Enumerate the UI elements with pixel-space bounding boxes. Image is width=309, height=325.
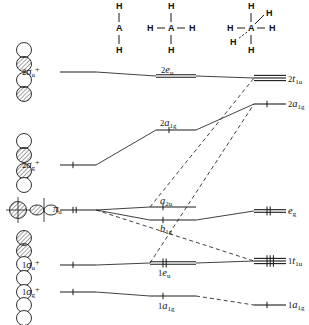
tetrahedral-ah4-center: A xyxy=(248,23,255,33)
energy-levels-group xyxy=(60,72,286,308)
tetrahedral-ah4-bond-dash xyxy=(238,32,247,39)
level-b1g xyxy=(150,217,196,223)
level-2sigma-g-plus-label: 2σg+ xyxy=(22,159,39,172)
level-2a1g-middle-label: 2a1g xyxy=(160,118,177,130)
pictogram-1sigma-chain-lobe-6 xyxy=(17,311,32,325)
level-2sigma-g-plus xyxy=(60,162,96,168)
linear-ah2-h-bottom: H xyxy=(116,45,123,55)
diagram-canvas xyxy=(0,0,309,325)
tetrahedral-ah4-h-wedge: H xyxy=(266,8,273,18)
corr-piu-a2u xyxy=(96,207,150,210)
level-1eu xyxy=(150,259,196,268)
orbital-pictograms-group xyxy=(6,43,58,325)
tetrahedral-ah4-bond-wedge xyxy=(255,15,264,24)
level-pi-u xyxy=(60,207,96,213)
square-planar-ah4-h-left: H xyxy=(147,23,154,33)
level-2a1g-right-label: 2a1g xyxy=(288,99,305,111)
level-eg-label: eg xyxy=(288,206,296,218)
correlation-lines-group xyxy=(96,72,254,305)
level-1a1g-right-label: 1a1g xyxy=(288,300,305,312)
pictogram-2sigma-u-lobe-0 xyxy=(17,43,32,58)
level-2sigma-u-plus-label: 2σu+ xyxy=(22,66,39,79)
tetrahedral-ah4-h-dash: H xyxy=(230,37,237,47)
level-b1g-label: b1g xyxy=(160,224,172,236)
level-1t1u xyxy=(254,255,286,267)
corr-a2u-2t1u-dashed xyxy=(150,78,254,207)
level-2eu-label: 2eu xyxy=(161,65,173,77)
pictogram-2sigma-g-lobe-3 xyxy=(17,178,32,193)
tetrahedral-ah4-h-left: H xyxy=(227,23,234,33)
level-1sigma-u-plus-label: 1σu+ xyxy=(22,259,39,272)
level-1sigma-u-plus xyxy=(60,262,96,268)
level-pi-u-label: πu xyxy=(53,204,62,216)
linear-ah2-h-top: H xyxy=(116,1,123,11)
level-a2u-label: a2u xyxy=(160,196,172,208)
corr-2a1gmid-2a1gright xyxy=(196,104,254,130)
pictogram-pi-u-lobe-left xyxy=(30,205,44,215)
tetrahedral-ah4-h-bottom: H xyxy=(248,45,255,55)
corr-b1g-eg xyxy=(196,211,254,220)
pictogram-pi-u xyxy=(6,197,58,223)
corr-1sigmag-1a1gmid xyxy=(96,292,150,296)
corr-2sigmau-2eu xyxy=(96,72,156,76)
square-planar-ah4-h-top: H xyxy=(168,1,175,11)
level-2t1u-label: 2t1u xyxy=(288,74,302,86)
level-1sigma-g-plus xyxy=(60,289,96,295)
level-2t1u xyxy=(254,75,286,80)
square-planar-ah4-h-right: H xyxy=(189,23,196,33)
square-planar-ah4-center: A xyxy=(168,23,175,33)
level-1t1u-label: 1t1u xyxy=(288,256,302,268)
pictogram-1sigma-chain xyxy=(17,231,32,325)
corr-2sigmag-2a1g-mid xyxy=(96,130,156,165)
pictogram-2sigma-u-lobe-3 xyxy=(17,87,32,102)
tetrahedral-ah4-h-right: H xyxy=(269,23,276,33)
pictogram-1sigma-chain-lobe-3 xyxy=(17,271,32,286)
level-1a1g-middle xyxy=(150,293,196,299)
square-planar-ah4-h-bottom: H xyxy=(168,45,175,55)
corr-1a1gmid-1a1gright xyxy=(196,296,254,305)
level-1a1g-right xyxy=(254,302,286,308)
linear-ah2-center: A xyxy=(116,23,123,33)
corr-2eu-2t1u xyxy=(196,76,254,78)
corr-piu-1t1u-dashed xyxy=(96,210,254,261)
level-1a1g-middle-label: 1a1g xyxy=(158,301,175,313)
corr-1sigmau-1eu xyxy=(96,263,150,265)
level-a2u xyxy=(150,204,196,210)
level-1sigma-g-plus-label: 1σg+ xyxy=(22,286,39,299)
corr-1eu-1t1u xyxy=(196,261,254,263)
pictogram-2sigma-g-lobe-0 xyxy=(17,134,32,149)
level-2a1g-right xyxy=(254,101,286,107)
level-eg xyxy=(254,207,286,216)
tetrahedral-ah4-h-top: H xyxy=(248,1,255,11)
mo-correlation-diagram: 2σu+2σg+πu1σu+1σg+2eu2a1ga2ub1g1eu1a1g2t… xyxy=(0,0,309,325)
level-1eu-label: 1eu xyxy=(158,268,170,280)
